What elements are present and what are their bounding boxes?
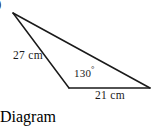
angle-value: 130 <box>74 67 91 79</box>
degree-symbol-icon: ° <box>91 64 95 74</box>
side-length-label-bottom: 21 cm <box>95 90 125 102</box>
angle-measure-label: 130° <box>74 68 95 79</box>
triangle-diagram-screenshot: ) 27 cm 130° 21 cm <box>0 0 156 108</box>
side-length-label-left: 27 cm <box>13 50 43 62</box>
problem-tag-label: ) <box>0 0 1 10</box>
